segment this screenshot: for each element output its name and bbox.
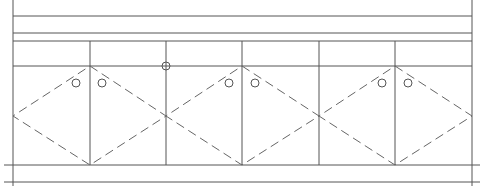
knob-icon bbox=[251, 79, 259, 87]
knob-icon bbox=[378, 79, 386, 87]
knob-icon bbox=[98, 79, 106, 87]
knob-icon bbox=[404, 79, 412, 87]
door-dividers bbox=[90, 41, 395, 165]
knob-icon bbox=[72, 79, 80, 87]
cabinet-elevation-drawing bbox=[0, 0, 480, 186]
knob-icon bbox=[225, 79, 233, 87]
